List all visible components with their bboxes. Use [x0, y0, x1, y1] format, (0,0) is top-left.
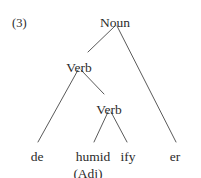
- tree-gloss-adj: (Adj): [73, 167, 102, 178]
- branch-noun-to-er: [117, 26, 176, 142]
- tree-terminal-humid: humid: [76, 150, 111, 164]
- tree-terminal-ify: ify: [121, 150, 136, 164]
- example-number-label: (3): [12, 17, 27, 30]
- branch-verb-outer-to-de: [38, 70, 78, 142]
- tree-node-verb-outer: Verb: [66, 61, 92, 75]
- tree-node-noun: Noun: [100, 16, 130, 30]
- tree-node-verb-inner: Verb: [96, 103, 122, 117]
- tree-terminal-er: er: [170, 150, 181, 164]
- tree-terminal-de: de: [31, 150, 44, 164]
- syntax-tree-figure: (3) Noun Verb Verb de humid ify er (Adj): [0, 0, 201, 178]
